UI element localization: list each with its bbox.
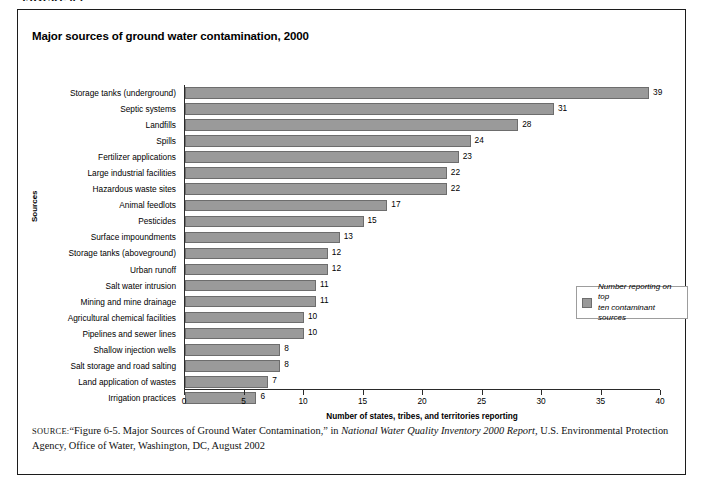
x-axis-tick-mark [601, 390, 602, 395]
bar-row: 12 [185, 262, 660, 278]
plot-region: Sources Storage tanks (underground)Septi… [32, 62, 673, 412]
bar-row: 8 [185, 342, 660, 358]
bar-value-label: 15 [368, 215, 377, 225]
bar [185, 312, 304, 324]
bar-row: 12 [185, 245, 660, 261]
x-axis-tick-label: 5 [241, 396, 246, 406]
x-axis-tick-mark [184, 390, 185, 395]
category-label: Animal feedlots [42, 197, 180, 213]
category-label: Pipelines and sewer lines [42, 326, 180, 342]
bar-value-label: 7 [272, 375, 277, 385]
category-label: Salt water intrusion [42, 278, 180, 294]
bar-value-label: 22 [451, 167, 460, 177]
bar [185, 344, 280, 356]
x-axis-tick-label: 20 [417, 396, 426, 406]
bar [185, 280, 316, 292]
x-axis-tick-mark [541, 390, 542, 395]
y-axis-category-labels: Storage tanks (underground)Septic system… [42, 85, 180, 406]
x-axis-tick-mark [422, 390, 423, 395]
bar [185, 264, 328, 276]
x-axis-tick-mark [482, 390, 483, 395]
bar-row: 13 [185, 229, 660, 245]
bar-value-label: 10 [308, 311, 317, 321]
legend-swatch-icon [582, 298, 592, 308]
bar-value-label: 11 [320, 279, 329, 289]
category-label: Salt storage and road salting [42, 358, 180, 374]
bar-row: 22 [185, 181, 660, 197]
x-axis-tick-mark [363, 390, 364, 395]
bar-row: 39 [185, 85, 660, 101]
legend-label: Number reporting on top ten contaminant … [598, 282, 682, 324]
category-label: Irrigation practices [42, 390, 180, 406]
bar-row: 10 [185, 326, 660, 342]
x-axis-ticks: 0510152025303540 [184, 390, 660, 412]
category-label: Shallow injection wells [42, 342, 180, 358]
bar [185, 328, 304, 340]
bar [185, 167, 447, 179]
figure-frame: Major sources of ground water contaminat… [17, 9, 686, 475]
category-label: Pesticides [42, 213, 180, 229]
category-label: Hazardous waste sites [42, 181, 180, 197]
bar [185, 200, 387, 212]
bar-value-label: 11 [320, 295, 329, 305]
bar-value-label: 8 [284, 343, 289, 353]
x-axis-title: Number of states, tribes, and territorie… [184, 412, 660, 421]
x-axis-tick-label: 0 [182, 396, 187, 406]
source-note-part1: “Figure 6-5. Major Sources of Ground Wat… [69, 425, 341, 436]
x-axis-tick-mark [660, 390, 661, 395]
bar-row: 24 [185, 133, 660, 149]
source-note-label: SOURCE: [32, 427, 69, 436]
figure-caption: FIGURE 6.1 [22, 0, 84, 1]
x-axis-tick-mark [303, 390, 304, 395]
x-axis-tick-label: 15 [358, 396, 367, 406]
bar [185, 135, 471, 147]
x-axis-tick-label: 35 [596, 396, 605, 406]
bar-value-label: 31 [558, 103, 567, 113]
x-axis-tick-label: 25 [477, 396, 486, 406]
bar-row: 8 [185, 358, 660, 374]
bar [185, 151, 459, 163]
chart-title: Major sources of ground water contaminat… [32, 30, 309, 42]
category-label: Surface impoundments [42, 229, 180, 245]
category-label: Urban runoff [42, 262, 180, 278]
x-axis-tick-label: 40 [655, 396, 664, 406]
category-label: Septic systems [42, 101, 180, 117]
bar-row: 22 [185, 165, 660, 181]
bar [185, 103, 554, 115]
category-label: Land application of wastes [42, 374, 180, 390]
bar-value-label: 24 [475, 135, 484, 145]
bar-value-label: 23 [463, 151, 472, 161]
bar-value-label: 12 [332, 247, 341, 257]
category-label: Landfills [42, 117, 180, 133]
bar-value-label: 10 [308, 327, 317, 337]
bar [185, 183, 447, 195]
bar-value-label: 22 [451, 183, 460, 193]
bar-value-label: 39 [653, 87, 662, 97]
bar-value-label: 28 [522, 119, 531, 129]
bar-value-label: 8 [284, 359, 289, 369]
bar-row: 23 [185, 149, 660, 165]
x-axis-tick-label: 30 [536, 396, 545, 406]
x-axis-tick-label: 10 [298, 396, 307, 406]
bar [185, 360, 280, 372]
bar-value-label: 12 [332, 263, 341, 273]
category-label: Agricultural chemical facilities [42, 310, 180, 326]
bar-row: 7 [185, 374, 660, 390]
bar-row: 17 [185, 197, 660, 213]
category-label: Large industrial facilities [42, 165, 180, 181]
y-axis-title: Sources [30, 190, 39, 222]
bar-value-label: 17 [391, 199, 400, 209]
bar [185, 119, 518, 131]
bar-chart-plot-area: 393128242322221715131212111110108876 [184, 85, 660, 390]
category-label: Spills [42, 133, 180, 149]
bar [185, 376, 268, 388]
category-label: Fertilizer applications [42, 149, 180, 165]
bar-value-label: 13 [344, 231, 353, 241]
x-axis-tick-mark [244, 390, 245, 395]
bar [185, 232, 340, 244]
bar-row: 31 [185, 101, 660, 117]
source-note-italic: National Water Quality Inventory 2000 Re… [341, 425, 537, 436]
category-label: Mining and mine drainage [42, 294, 180, 310]
category-label: Storage tanks (underground) [42, 85, 180, 101]
category-label: Storage tanks (aboveground) [42, 245, 180, 261]
